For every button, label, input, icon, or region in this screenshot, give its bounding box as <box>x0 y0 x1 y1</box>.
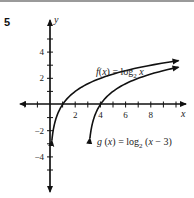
x-axis-label: x <box>180 108 186 119</box>
svg-text:2: 2 <box>73 110 78 120</box>
svg-text:8: 8 <box>149 110 154 120</box>
g-label: g (x) = log2 (x − 3) <box>97 136 172 150</box>
svg-text:−4: −4 <box>34 152 44 162</box>
svg-text:4: 4 <box>98 110 103 120</box>
svg-text:4: 4 <box>40 47 45 57</box>
svg-text:−2: −2 <box>34 126 44 136</box>
svg-text:2: 2 <box>40 73 45 83</box>
chart: 246842−2−4 y x f(x) = log2 x g (x) = log… <box>0 0 194 198</box>
svg-text:6: 6 <box>123 110 128 120</box>
y-axis-label: y <box>53 14 59 25</box>
